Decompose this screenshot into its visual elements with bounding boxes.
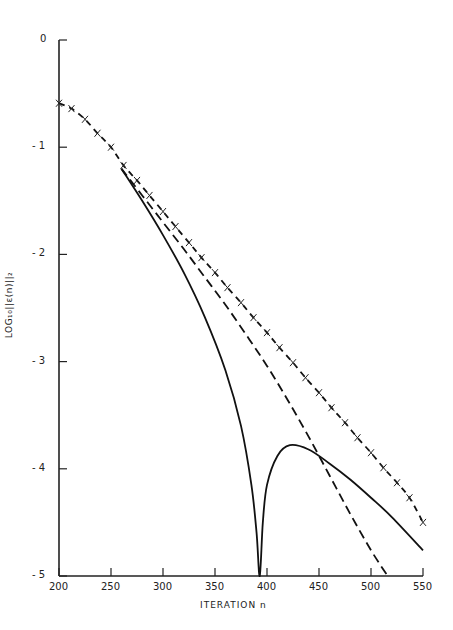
- x-marker: [224, 284, 230, 291]
- x-marker: [160, 208, 166, 215]
- x-marker: [342, 419, 348, 426]
- x-tick-label: 350: [205, 581, 224, 592]
- x-tick-label: 250: [101, 581, 120, 592]
- series-dashed-with-x-markers: [59, 103, 423, 522]
- x-marker: [354, 434, 360, 441]
- x-marker: [380, 464, 386, 471]
- x-marker: [94, 130, 100, 137]
- x-tick-label: 550: [413, 581, 432, 592]
- x-marker: [172, 223, 178, 230]
- x-marker: [250, 314, 256, 321]
- series-solid: [121, 169, 423, 576]
- x-marker: [406, 494, 412, 501]
- x-marker: [328, 404, 334, 411]
- x-marker: [186, 239, 192, 246]
- x-tick-label: 400: [257, 581, 276, 592]
- y-tick-label: - 5: [32, 569, 45, 580]
- x-marker: [316, 389, 322, 396]
- x-tick-label: 300: [153, 581, 172, 592]
- x-marker: [134, 177, 140, 184]
- y-tick-label: - 2: [32, 247, 45, 258]
- x-marker: [212, 269, 218, 276]
- x-marker: [198, 254, 204, 261]
- x-marker: [264, 329, 270, 336]
- x-marker: [82, 116, 88, 123]
- x-marker: [276, 344, 282, 351]
- x-axis-label: ITERATION n: [200, 600, 267, 610]
- x-tick-label: 500: [361, 581, 380, 592]
- y-axis-label: LOG₁₀||ε(n)||₂: [4, 272, 14, 338]
- x-marker: [146, 192, 152, 199]
- y-tick-label: - 1: [32, 140, 45, 151]
- x-marker: [68, 105, 74, 112]
- x-marker: [368, 449, 374, 456]
- x-marker: [420, 519, 426, 526]
- y-tick-label: 0: [40, 33, 46, 44]
- x-marker: [108, 144, 114, 151]
- x-marker: [120, 162, 126, 169]
- x-tick-label: 450: [309, 581, 328, 592]
- y-tick-label: - 4: [32, 462, 45, 473]
- x-marker: [394, 479, 400, 486]
- x-tick-label: 200: [49, 581, 68, 592]
- x-marker: [290, 359, 296, 366]
- line-chart: [0, 0, 453, 630]
- y-tick-label: - 3: [32, 355, 45, 366]
- x-marker: [302, 374, 308, 381]
- series-group: [56, 100, 426, 576]
- x-marker: [238, 299, 244, 306]
